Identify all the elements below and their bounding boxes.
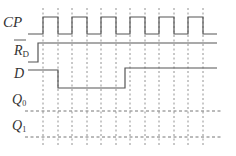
- label-q1: Q1: [12, 118, 26, 134]
- label-rd: RD: [13, 40, 30, 59]
- label-d: D: [13, 66, 24, 81]
- timing-diagram: CP RD D Q0 Q1: [0, 0, 236, 156]
- cp-waveform: [28, 17, 217, 34]
- d-waveform: [28, 68, 217, 88]
- edge-guides: [43, 8, 203, 146]
- rd-waveform: [28, 43, 217, 62]
- svg-text:RD: RD: [13, 43, 30, 59]
- label-cp: CP: [3, 14, 22, 30]
- label-q0: Q0: [12, 92, 26, 108]
